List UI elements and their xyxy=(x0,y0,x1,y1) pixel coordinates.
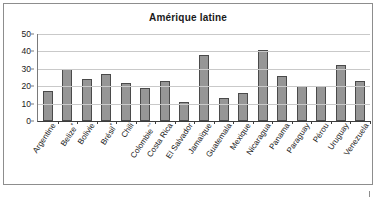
bar[interactable] xyxy=(179,102,189,121)
bar-slot xyxy=(97,34,117,121)
bar-slot xyxy=(272,34,292,121)
gridline xyxy=(38,51,370,52)
bar[interactable] xyxy=(101,74,111,121)
y-axis-tickmark xyxy=(31,51,34,52)
bar-slot xyxy=(253,34,273,121)
y-axis-tickmark xyxy=(31,103,34,104)
y-axis-tick-label: 10 xyxy=(22,99,31,108)
x-axis-tick-label: Chili xyxy=(120,122,135,139)
bar-slot xyxy=(38,34,58,121)
bar-slot xyxy=(350,34,370,121)
y-axis-tick-label: 30 xyxy=(22,65,31,74)
bar[interactable] xyxy=(62,69,72,121)
bar-slot xyxy=(311,34,331,121)
bar[interactable] xyxy=(219,98,229,121)
gridline xyxy=(38,69,370,70)
bar-slot xyxy=(292,34,312,121)
x-axis-tick-label: Brésil* xyxy=(97,122,118,146)
bars-layer xyxy=(38,34,370,121)
bar[interactable] xyxy=(43,91,53,121)
y-axis-tick-label: 40 xyxy=(22,47,31,56)
bar[interactable] xyxy=(336,65,346,121)
y-axis: 01020304050 xyxy=(7,34,34,121)
page-edge-tick xyxy=(369,191,370,197)
bar-slot xyxy=(214,34,234,121)
bar-slot xyxy=(331,34,351,121)
bar-slot xyxy=(155,34,175,121)
y-axis-tick-label: 20 xyxy=(22,82,31,91)
x-axis-tick-label: Argentine xyxy=(32,122,58,155)
chart-frame: Amérique latine 01020304050 ArgentineBel… xyxy=(3,3,373,185)
x-axis: ArgentineBelize*BolivieBrésil*ChiliColom… xyxy=(37,122,369,186)
x-axis-tick-label: Bolivie xyxy=(77,122,97,146)
bar-slot xyxy=(233,34,253,121)
x-axis-tick-label: Pérou xyxy=(313,122,332,144)
plot-area xyxy=(37,34,370,122)
y-axis-tickmark xyxy=(31,34,34,35)
chart-title: Amérique latine xyxy=(4,12,372,23)
bar[interactable] xyxy=(121,83,131,121)
gridline xyxy=(38,34,370,35)
bar-slot xyxy=(116,34,136,121)
x-axis-tickmark xyxy=(370,121,371,124)
y-axis-tick-label: 50 xyxy=(22,30,31,39)
bar[interactable] xyxy=(199,55,209,121)
bar[interactable] xyxy=(277,76,287,121)
y-axis-tickmark xyxy=(31,68,34,69)
y-axis-tickmark xyxy=(31,86,34,87)
bar-slot xyxy=(194,34,214,121)
bar-slot xyxy=(77,34,97,121)
gridline xyxy=(38,104,370,105)
gridline xyxy=(38,86,370,87)
bar[interactable] xyxy=(238,93,248,121)
bar-slot xyxy=(175,34,195,121)
bar-slot xyxy=(58,34,78,121)
y-axis-tickmark xyxy=(31,121,34,122)
x-axis-tick-label: Belize* xyxy=(57,122,79,148)
bar-slot xyxy=(136,34,156,121)
